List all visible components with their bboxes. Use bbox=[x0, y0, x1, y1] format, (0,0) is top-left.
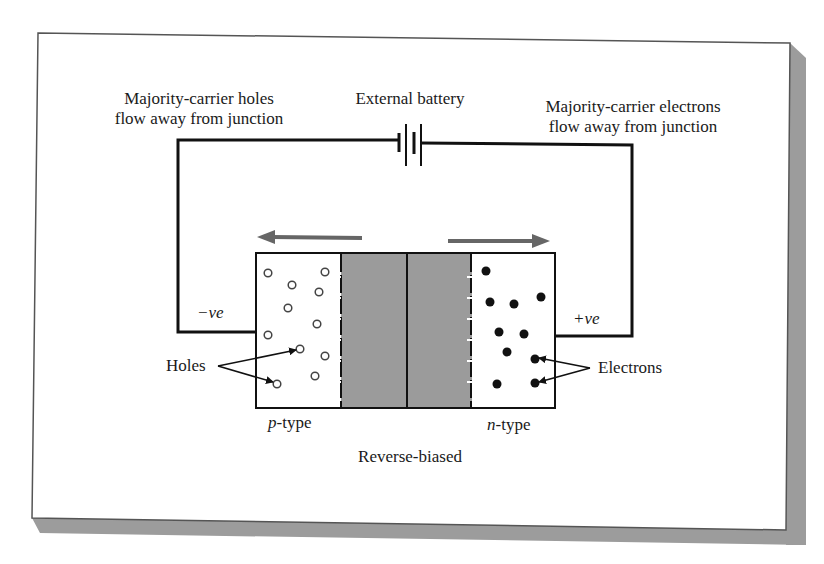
electron-icon bbox=[482, 267, 491, 276]
left-annotation-line1: Majority-carrier holes bbox=[84, 89, 314, 109]
right-annotation: Majority-carrier electrons flow away fro… bbox=[508, 97, 758, 137]
p-suffix: -type bbox=[277, 413, 312, 432]
positive-terminal-label: +ve bbox=[573, 309, 600, 329]
electron-icon bbox=[510, 300, 519, 309]
hole-icon bbox=[273, 380, 281, 388]
hole-icon bbox=[264, 331, 272, 339]
hole-icon bbox=[321, 352, 329, 360]
pn-junction-diagram bbox=[0, 0, 824, 564]
hole-icon bbox=[288, 281, 296, 289]
electron-icon bbox=[520, 330, 529, 339]
n-letter: n bbox=[487, 415, 496, 434]
left-annotation-line2: flow away from junction bbox=[84, 109, 314, 129]
electron-icon bbox=[503, 348, 512, 357]
battery-label: External battery bbox=[325, 89, 495, 109]
p-letter: p bbox=[268, 413, 277, 432]
figure-caption: Reverse-biased bbox=[320, 447, 500, 467]
hole-icon bbox=[311, 372, 319, 380]
electrons-label: Electrons bbox=[598, 358, 662, 378]
right-annotation-line2: flow away from junction bbox=[508, 117, 758, 137]
electron-icon bbox=[493, 380, 502, 389]
p-type-label: p-type bbox=[268, 413, 311, 433]
hole-icon bbox=[315, 288, 323, 296]
n-suffix: -type bbox=[496, 415, 531, 434]
hole-icon bbox=[284, 304, 292, 312]
electron-icon bbox=[531, 355, 540, 364]
electron-icon bbox=[537, 293, 546, 302]
n-type-label: n-type bbox=[487, 415, 530, 435]
hole-icon bbox=[264, 269, 272, 277]
hole-icon bbox=[321, 268, 329, 276]
hole-icon bbox=[313, 320, 321, 328]
electron-icon bbox=[495, 328, 504, 337]
electron-icon bbox=[531, 379, 540, 388]
negative-terminal-label: −ve bbox=[197, 303, 224, 323]
right-annotation-line1: Majority-carrier electrons bbox=[508, 97, 758, 117]
hole-icon bbox=[296, 345, 304, 353]
left-annotation: Majority-carrier holes flow away from ju… bbox=[84, 89, 314, 129]
holes-label: Holes bbox=[166, 356, 206, 376]
electron-icon bbox=[486, 298, 495, 307]
